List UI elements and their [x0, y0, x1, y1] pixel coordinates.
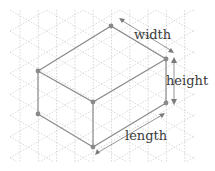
- vertex: [91, 145, 96, 150]
- vertex: [91, 100, 96, 105]
- length-label: length: [125, 128, 168, 143]
- bottom-left-edge: [38, 114, 93, 147]
- height-label: height: [166, 73, 209, 88]
- vertex: [36, 112, 41, 117]
- arrow-icon: [159, 113, 165, 118]
- arrow-icon: [171, 57, 177, 63]
- width-label: width: [134, 27, 172, 42]
- length-dimension: length: [95, 113, 168, 155]
- arrow-icon: [171, 99, 177, 105]
- vertex: [164, 101, 169, 106]
- vertex: [164, 57, 169, 62]
- arrow-icon: [95, 149, 100, 155]
- vertex: [36, 69, 41, 74]
- vertex: [109, 24, 114, 29]
- isometric-diagram: width height length: [0, 0, 215, 171]
